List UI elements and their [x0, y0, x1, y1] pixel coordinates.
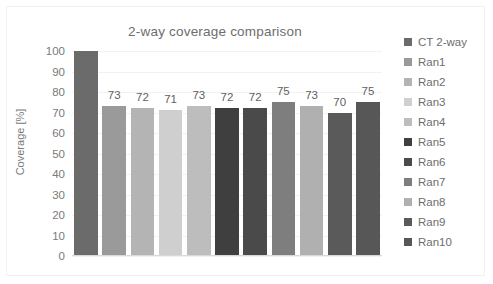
gridline — [72, 256, 382, 257]
legend-item[interactable]: Ran6 — [404, 152, 467, 172]
legend-item[interactable]: Ran2 — [404, 72, 467, 92]
legend-item-label: CT 2-way — [418, 36, 467, 48]
legend-item[interactable]: Ran5 — [404, 132, 467, 152]
chart-legend: CT 2-wayRan1Ran2Ran3Ran4Ran5Ran6Ran7Ran8… — [404, 32, 467, 252]
legend-swatch-icon — [404, 158, 412, 166]
chart-title: 2-way coverage comparison — [60, 24, 370, 39]
bar-value-label: 72 — [221, 91, 234, 103]
y-axis-tick-label: 10 — [52, 230, 65, 242]
bar-value-label: 73 — [192, 89, 205, 101]
bar-column[interactable] — [328, 51, 352, 256]
legend-swatch-icon — [404, 58, 412, 66]
legend-swatch-icon — [404, 78, 412, 86]
bar-column[interactable] — [300, 51, 324, 256]
bar[interactable] — [215, 108, 239, 256]
legend-item-label: Ran1 — [418, 56, 446, 68]
bar-column[interactable] — [74, 51, 98, 256]
legend-item-label: Ran4 — [418, 116, 446, 128]
y-axis-tick-label: 70 — [52, 107, 65, 119]
legend-swatch-icon — [404, 138, 412, 146]
y-axis-title: Coverage [%] — [14, 109, 26, 176]
legend-swatch-icon — [404, 218, 412, 226]
bar-value-label: 75 — [362, 85, 375, 97]
bar-column[interactable] — [187, 51, 211, 256]
y-axis-tick-label: 40 — [52, 168, 65, 180]
y-axis-tick-label: 100 — [46, 45, 65, 57]
bar-value-label: 75 — [277, 85, 290, 97]
bar[interactable] — [102, 106, 126, 256]
y-axis-tick-label: 50 — [52, 148, 65, 160]
bar[interactable] — [300, 106, 324, 256]
bar[interactable] — [328, 113, 352, 257]
bar-chart: 2-way coverage comparison Coverage [%] 1… — [0, 0, 493, 284]
legend-item[interactable]: Ran7 — [404, 172, 467, 192]
y-axis-tick-label: 20 — [52, 209, 65, 221]
legend-swatch-icon — [404, 198, 412, 206]
legend-swatch-icon — [404, 38, 412, 46]
bar-column[interactable] — [356, 51, 380, 256]
bar[interactable] — [131, 108, 155, 256]
legend-swatch-icon — [404, 178, 412, 186]
legend-item[interactable]: Ran8 — [404, 192, 467, 212]
bar-value-label: 72 — [249, 91, 262, 103]
y-axis-tick-label: 60 — [52, 127, 65, 139]
bar-value-label: 70 — [333, 96, 346, 108]
legend-item[interactable]: Ran4 — [404, 112, 467, 132]
legend-item-label: Ran6 — [418, 156, 446, 168]
legend-item[interactable]: Ran10 — [404, 232, 467, 252]
legend-item-label: Ran7 — [418, 176, 446, 188]
bar-column[interactable] — [215, 51, 239, 256]
legend-item[interactable]: Ran9 — [404, 212, 467, 232]
bar-value-label: 73 — [108, 89, 121, 101]
bar-column[interactable] — [243, 51, 267, 256]
bar[interactable] — [356, 102, 380, 256]
bar[interactable] — [159, 110, 183, 256]
bar-value-label: 71 — [164, 93, 177, 105]
legend-swatch-icon — [404, 98, 412, 106]
bar-column[interactable] — [131, 51, 155, 256]
bar-column[interactable] — [272, 51, 296, 256]
y-axis-tick-label: 0 — [59, 250, 65, 262]
plot-area: 1009080706050403020100 73727173727275737… — [72, 51, 382, 256]
legend-swatch-icon — [404, 118, 412, 126]
legend-item[interactable]: Ran3 — [404, 92, 467, 112]
legend-item-label: Ran10 — [418, 236, 452, 248]
legend-item[interactable]: Ran1 — [404, 52, 467, 72]
bar[interactable] — [74, 51, 98, 256]
bar-value-label: 72 — [136, 91, 149, 103]
x-axis-line — [72, 255, 382, 256]
bar-value-label: 73 — [305, 89, 318, 101]
legend-item-label: Ran2 — [418, 76, 446, 88]
bar-column[interactable] — [102, 51, 126, 256]
legend-item-label: Ran3 — [418, 96, 446, 108]
legend-item-label: Ran8 — [418, 196, 446, 208]
legend-swatch-icon — [404, 238, 412, 246]
bar[interactable] — [187, 106, 211, 256]
legend-item-label: Ran5 — [418, 136, 446, 148]
y-axis-tick-label: 90 — [52, 66, 65, 78]
bar[interactable] — [243, 108, 267, 256]
bar-column[interactable] — [159, 51, 183, 256]
bar[interactable] — [272, 102, 296, 256]
y-axis-tick-label: 80 — [52, 86, 65, 98]
legend-item-label: Ran9 — [418, 216, 446, 228]
y-axis-tick-label: 30 — [52, 189, 65, 201]
legend-item[interactable]: CT 2-way — [404, 32, 467, 52]
